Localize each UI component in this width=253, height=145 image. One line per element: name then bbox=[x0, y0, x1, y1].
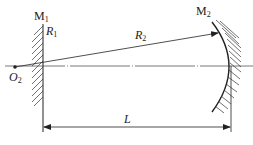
label-m1: M1 bbox=[34, 9, 49, 24]
label-r2: R2 bbox=[134, 28, 146, 43]
radius-r2-line bbox=[15, 33, 218, 67]
label-m2: M2 bbox=[196, 4, 211, 19]
mirror-m2-hatching bbox=[215, 20, 241, 113]
resonator-diagram: M1 R1 R2 M2 O2 L bbox=[0, 0, 253, 145]
concave-mirror-m2 bbox=[212, 20, 241, 132]
center-point-o2 bbox=[13, 65, 17, 69]
flat-mirror-m1 bbox=[32, 24, 43, 132]
label-length: L bbox=[123, 112, 131, 126]
label-o2: O2 bbox=[9, 70, 22, 85]
label-r1: R1 bbox=[45, 24, 57, 39]
